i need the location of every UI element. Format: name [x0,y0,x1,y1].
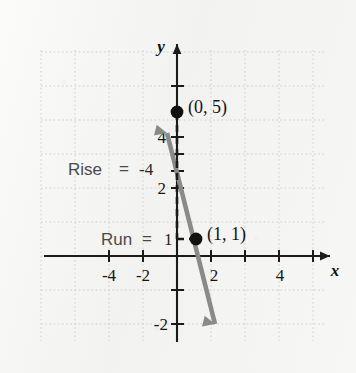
x-tick-label-2: 2 [210,266,219,285]
point-label-y-intercept: (0, 5) [188,97,227,118]
y-axis-label: y [155,37,165,56]
x-axis-arrowhead [320,252,330,261]
run-label: Run [101,230,132,249]
rise-equals-sign: = [119,159,129,178]
point-marker-y-intercept [171,106,184,119]
point-label-second: (1, 1) [207,224,246,245]
point-marker-second [190,233,203,246]
y-axis-arrowhead [173,44,182,54]
run-equals-sign: = [142,229,152,248]
x-axis-label: x [330,261,340,280]
rise-value: -4 [139,160,154,179]
y-tick-label-2: 2 [158,179,167,198]
x-tick-label--4: -4 [102,266,117,285]
coordinate-plane-graph: -4 -2 2 4 4 2 -2 y x [0,0,356,373]
x-tick-label-4: 4 [276,266,285,285]
run-value: 1 [164,230,173,249]
rise-label: Rise [68,160,102,179]
x-tick-label--2: -2 [136,266,150,285]
y-tick-label--2: -2 [154,315,168,334]
figure-container: -4 -2 2 4 4 2 -2 y x [0,0,356,373]
axes [44,44,330,342]
